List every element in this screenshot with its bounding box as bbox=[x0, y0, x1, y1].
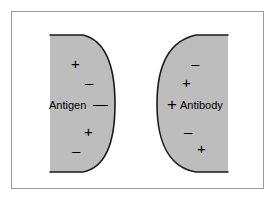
antibody-charge-minus-upper: – bbox=[191, 56, 199, 71]
antigen-charge-minus-upper-mid: – bbox=[85, 75, 93, 90]
antigen-charge-plus-upper: + bbox=[71, 56, 80, 71]
antigen-charge-plus-lower-mid: + bbox=[84, 124, 93, 139]
antibody-charge-minus-lower-mid: – bbox=[184, 124, 192, 139]
antibody-label: Antibody bbox=[180, 100, 223, 111]
antigen-label-charge-sign: — bbox=[93, 96, 108, 111]
antigen-label: Antigen bbox=[49, 100, 86, 111]
antibody-label-charge-sign: + bbox=[167, 96, 177, 113]
antigen-charge-minus-lower: – bbox=[72, 143, 80, 158]
antibody-charge-plus-upper-mid: + bbox=[182, 75, 191, 90]
figure-root: + – + – Antigen — – + – + + Antibody bbox=[0, 0, 276, 204]
antibody-charge-plus-lower: + bbox=[197, 141, 206, 156]
diagram-canvas bbox=[0, 0, 276, 204]
